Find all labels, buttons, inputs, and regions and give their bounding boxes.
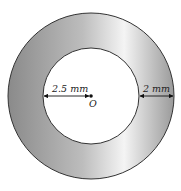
annulus-diagram: 2.5 mm 2 mm O bbox=[0, 0, 181, 191]
inner-radius-label: 2.5 mm bbox=[51, 83, 88, 94]
ring-width-label: 2 mm bbox=[142, 83, 170, 94]
center-label: O bbox=[89, 98, 97, 109]
